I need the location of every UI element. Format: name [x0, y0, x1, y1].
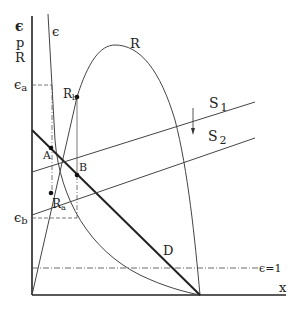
y-axis-label-p: p [16, 35, 24, 50]
point-a-label: A [42, 149, 52, 162]
y-axis-label-r: R [15, 50, 26, 65]
supply-1-label: S1 [209, 95, 228, 114]
unit-elasticity-label: є=1 [259, 262, 281, 275]
elasticity-curve-label: є [52, 24, 59, 39]
supply-2-label: S2 [208, 128, 227, 147]
y-axis-label-eps: є [15, 18, 24, 34]
demand-line [32, 130, 200, 295]
eps-a-label: єa [14, 77, 27, 93]
elasticity-curve [48, 14, 200, 295]
point-ra-label: Ra [52, 197, 66, 212]
shift-arrowhead [191, 128, 195, 135]
revenue-curve-label: R [130, 36, 141, 51]
point-b-label: B [79, 161, 87, 174]
point-rb-label: Rb [63, 87, 77, 102]
eps-b-label: єb [14, 210, 28, 226]
point-ra [49, 191, 54, 196]
demand-line-label: D [163, 243, 173, 258]
x-axis-label: x [279, 280, 287, 295]
supply-demand-elasticity-diagram: є p R x є R D S1 S2 є=1 A B Ra Rb єa єb [0, 0, 301, 310]
revenue-curve [32, 45, 200, 295]
